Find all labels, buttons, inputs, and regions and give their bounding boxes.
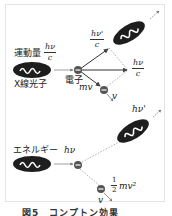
recoil-velocity-arrow <box>104 193 112 201</box>
incident-momentum-fraction: hν c <box>44 43 56 62</box>
scattered-energy-label: hν' <box>132 105 146 114</box>
compton-diagram <box>0 0 172 216</box>
recoil-velocity-label: v <box>98 196 103 205</box>
kinetic-energy-fraction: 1 2 <box>111 177 117 194</box>
scattered-photon-direction-arrow <box>150 11 159 19</box>
xray-photon-label: X線光子 <box>14 80 47 89</box>
parallelogram-dotted-top <box>109 48 127 69</box>
photon-path-dotted <box>82 141 121 162</box>
electron-path-dotted <box>80 169 99 185</box>
scattered-photon-energy-icon <box>113 115 152 148</box>
scattered-photon-icon <box>109 17 148 50</box>
scattered-photon-energy-arrow <box>153 110 161 117</box>
kinetic-energy-label: mv² <box>119 182 136 191</box>
scattered-momentum-fraction: hν' c <box>90 30 104 49</box>
incident-energy-label: hν <box>64 146 75 155</box>
electron-energy-icon <box>74 161 82 169</box>
resultant-momentum-fraction: hν c <box>132 59 144 78</box>
figure-caption: 図5 コンプトン効果 <box>22 206 119 216</box>
electron-icon <box>74 66 82 74</box>
electron-momentum-label: mv <box>79 83 93 92</box>
electron-velocity-label: v <box>112 92 117 101</box>
recoil-electron-icon <box>97 185 105 193</box>
momentum-label: 運動量 <box>14 49 41 58</box>
energy-label: エネルギー <box>13 146 58 155</box>
incident-photon-energy-icon <box>13 156 51 172</box>
scattered-photon-momentum-arrow <box>80 49 108 69</box>
incident-photon-icon <box>13 62 51 78</box>
parallelogram-dotted-bottom <box>105 71 127 88</box>
scattered-electron-icon <box>100 86 108 94</box>
